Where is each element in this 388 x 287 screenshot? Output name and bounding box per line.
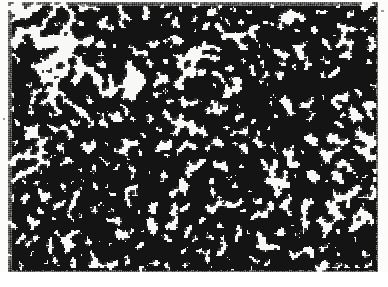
figure-root [0,0,388,287]
percolation-cluster-image [0,0,388,287]
